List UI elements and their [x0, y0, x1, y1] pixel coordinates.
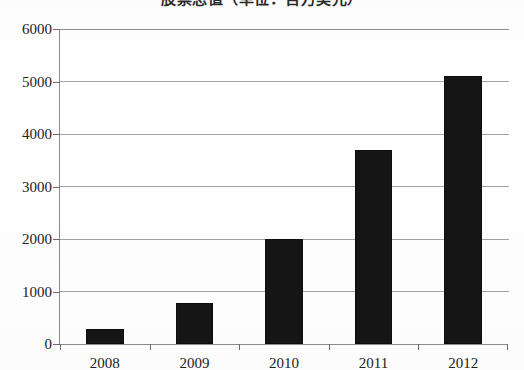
x-axis-tick-label-2008: 2008: [90, 355, 120, 370]
x-axis-tick-mark: [507, 344, 508, 350]
x-axis-tick-mark: [150, 344, 151, 350]
gridline: [60, 81, 509, 82]
y-axis-tick-label: 1000: [22, 283, 52, 300]
y-axis-tick-mark: [53, 239, 60, 240]
y-axis-tick-label: 0: [45, 336, 53, 353]
y-axis-tick-mark: [53, 134, 60, 135]
gridline: [60, 186, 509, 187]
bar-2012: [444, 76, 482, 344]
x-axis-tick-label-2009: 2009: [179, 355, 209, 370]
gridline: [60, 29, 509, 30]
y-axis-tick-label: 6000: [22, 21, 52, 38]
y-axis-tick-mark: [53, 292, 60, 293]
bar-2008: [86, 329, 124, 344]
y-axis-tick-label: 3000: [22, 178, 52, 195]
y-axis-tick-mark: [53, 187, 60, 188]
bar-2010: [265, 239, 303, 344]
x-axis-tick-mark: [60, 344, 61, 350]
x-axis-tick-mark: [239, 344, 240, 350]
x-axis-tick-mark: [418, 344, 419, 350]
y-axis-tick-mark: [53, 29, 60, 30]
bar-chart-figure: 股票总值（单位：百万美元） 01000200030004000500060002…: [0, 0, 524, 370]
y-axis-tick-label: 5000: [22, 73, 52, 90]
bar-2009: [176, 303, 214, 344]
gridline: [60, 134, 509, 135]
y-axis-tick-label: 2000: [22, 231, 52, 248]
bar-2011: [355, 150, 393, 344]
x-axis-tick-mark: [329, 344, 330, 350]
y-axis-tick-label: 4000: [22, 126, 52, 143]
x-axis-tick-label-2012: 2012: [448, 355, 478, 370]
y-axis-tick-mark: [53, 344, 60, 345]
x-axis-tick-label-2011: 2011: [359, 355, 388, 370]
plot-area: 0100020003000400050006000200820092010201…: [59, 29, 508, 345]
chart-title: 股票总值（单位：百万美元）: [0, 0, 524, 10]
x-axis-tick-label-2010: 2010: [269, 355, 299, 370]
y-axis-tick-mark: [53, 82, 60, 83]
